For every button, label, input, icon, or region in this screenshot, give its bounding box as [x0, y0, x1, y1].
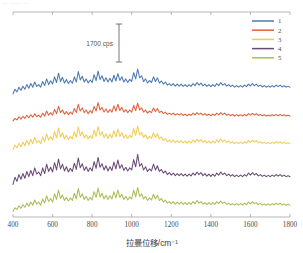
x-tick-label: 600 [47, 221, 58, 229]
x-axis-title: 拉曼位移/cm⁻¹ [126, 238, 178, 248]
spectrum-line-5 [13, 188, 290, 212]
spectrum-line-1 [13, 69, 290, 94]
legend-label-1: 1 [278, 17, 281, 24]
raman-spectra-figure: 40060080010001200140016001800 1700 cps 1… [0, 0, 303, 253]
x-tick-label: 1800 [283, 221, 298, 229]
legend-label-4: 4 [278, 45, 282, 52]
scale-bar-group: 1700 cps [86, 24, 122, 62]
legend-label-3: 3 [278, 36, 282, 43]
legend-label-2: 2 [278, 27, 282, 34]
x-tick-label: 800 [87, 221, 98, 229]
scale-bar-label: 1700 cps [86, 40, 113, 48]
spectrum-line-3 [13, 126, 290, 149]
x-tick-label: 1600 [243, 221, 258, 229]
x-tick-label: 1200 [164, 221, 179, 229]
x-tick-label: 1000 [125, 221, 140, 229]
legend-label-5: 5 [278, 54, 282, 61]
spectrum-line-2 [13, 103, 290, 121]
plot-area [13, 69, 290, 211]
x-tick-label: 1400 [204, 221, 219, 229]
x-tick-label: 400 [8, 221, 19, 229]
legend-group: 12345 [252, 17, 282, 61]
spectrum-line-4 [13, 154, 290, 184]
